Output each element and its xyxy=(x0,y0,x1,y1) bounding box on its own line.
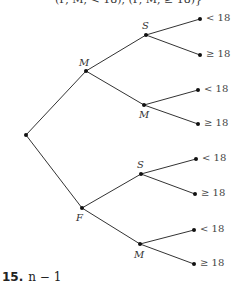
answer-line: 15.n − 1 xyxy=(2,270,61,284)
node-label-s1: S xyxy=(142,20,149,31)
leaf-label: < 18 xyxy=(200,223,224,234)
node-label-f: F xyxy=(76,212,83,223)
leaf-label: ≥ 18 xyxy=(204,117,228,128)
node-label-m1: M xyxy=(79,57,89,68)
node-label-s2: S xyxy=(137,159,144,170)
leaf-label: < 18 xyxy=(206,12,230,23)
leaf-label: ≥ 18 xyxy=(206,48,230,59)
node-label-m2: M xyxy=(139,109,149,120)
leaf-label: ≥ 18 xyxy=(201,187,225,198)
answer-expression: n − 1 xyxy=(28,270,61,284)
leaf-label: < 18 xyxy=(202,152,226,163)
tree-diagram xyxy=(0,0,237,291)
node-label-m3: M xyxy=(134,249,144,260)
root-node xyxy=(24,133,28,137)
answer-number: 15. xyxy=(2,270,23,284)
leaf-label: ≥ 18 xyxy=(200,257,224,268)
leaf-label: < 18 xyxy=(204,83,228,94)
